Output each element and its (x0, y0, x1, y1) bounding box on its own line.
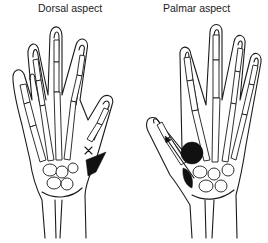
hand-diagram (0, 0, 268, 243)
shaded-circle-region (181, 142, 203, 164)
palmar-carpals (192, 164, 234, 199)
palmar-hand (147, 25, 261, 239)
x-mark-icon (85, 147, 92, 154)
dorsal-hand (13, 27, 113, 238)
palmar-bones (157, 35, 258, 165)
dorsal-bones (20, 40, 109, 162)
shaded-region (183, 168, 193, 188)
dorsal-carpals (42, 163, 82, 197)
shaded-triangle-region (86, 152, 106, 176)
